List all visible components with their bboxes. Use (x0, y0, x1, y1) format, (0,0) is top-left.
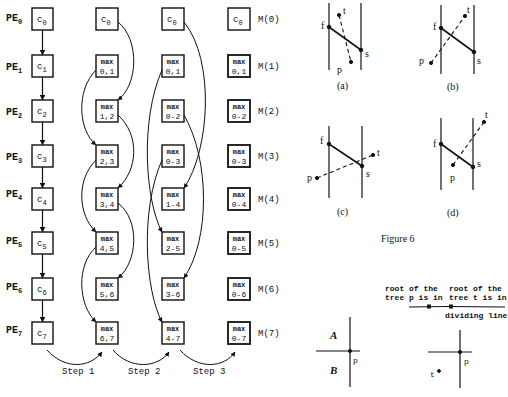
m-label-7: M(7) (258, 329, 280, 339)
m-label-1: M(1) (258, 62, 280, 72)
cell-c4-col0: c4 (32, 188, 53, 210)
svg-text:c0: c0 (37, 15, 47, 27)
svg-text:max: max (233, 235, 246, 243)
svg-text:max: max (233, 103, 246, 111)
svg-text:max: max (101, 191, 114, 199)
svg-text:0-5: 0-5 (232, 244, 247, 253)
figure6-panel-d: f s t p (d) (433, 109, 488, 219)
m-label-0: M(0) (258, 15, 280, 25)
svg-text:0,1: 0,1 (232, 67, 247, 76)
cell-col2-7: max4-7 (162, 322, 184, 344)
step-arrows (47, 350, 235, 365)
svg-text:t: t (343, 5, 346, 16)
svg-text:max: max (233, 58, 246, 66)
svg-text:3-6: 3-6 (166, 290, 181, 299)
cell-col3-2: max0-2 (228, 100, 250, 122)
svg-text:t: t (430, 370, 435, 379)
m-label-6: M(6) (258, 285, 280, 295)
svg-text:0-4: 0-4 (232, 200, 247, 209)
svg-text:f: f (433, 21, 437, 32)
svg-text:p: p (337, 64, 342, 75)
svg-text:max: max (233, 281, 246, 289)
svg-text:p: p (450, 172, 455, 183)
step-1-label: Step 1 (62, 367, 94, 377)
cell-col1-0: c0 (96, 8, 118, 30)
svg-text:4-7: 4-7 (166, 334, 181, 343)
root-t-label-line1: root of the (449, 284, 502, 293)
svg-text:5,6: 5,6 (100, 290, 115, 299)
svg-text:c1: c1 (37, 62, 47, 74)
figure-6-title: Figure 6 (381, 233, 415, 244)
svg-text:p: p (419, 55, 424, 66)
svg-text:c2: c2 (37, 107, 47, 119)
cell-col2-2: max0-2 (162, 100, 184, 122)
svg-text:max: max (167, 58, 180, 66)
svg-text:max: max (101, 148, 114, 156)
m-label-3: M(3) (258, 152, 280, 162)
cell-col1-6: max5,6 (96, 278, 118, 300)
cell-c5-col0: c5 (32, 232, 53, 254)
svg-text:max: max (101, 325, 114, 333)
cell-c0-col0: c0 (32, 8, 53, 30)
m-label-2: M(2) (258, 107, 280, 117)
step-labels: Step 1 Step 2 Step 3 (62, 367, 225, 377)
svg-text:max: max (233, 191, 246, 199)
svg-text:max: max (167, 103, 180, 111)
pe-label-3: PE3 (6, 152, 22, 165)
dividing-line-label: dividing line (445, 311, 508, 320)
svg-text:max: max (167, 281, 180, 289)
svg-text:c0: c0 (101, 15, 111, 27)
svg-text:t: t (377, 147, 380, 158)
svg-text:0-3: 0-3 (166, 157, 181, 166)
root-p-label-line1: root of the (385, 284, 438, 293)
pe-labels: PE0 PE1 PE2 PE3 PE4 PE5 PE6 PE7 (6, 13, 22, 338)
svg-text:c6: c6 (37, 285, 47, 297)
pe-label-4: PE4 (6, 189, 22, 202)
cell-col3-6: max0-6 (228, 278, 250, 300)
caption-c: (c) (337, 206, 348, 218)
svg-text:max: max (101, 103, 114, 111)
caption-b: (b) (447, 81, 459, 93)
svg-text:p: p (307, 172, 312, 183)
svg-text:t: t (485, 109, 488, 120)
svg-text:max: max (167, 235, 180, 243)
svg-text:s: s (477, 55, 481, 66)
cell-col2-3: max0-3 (162, 145, 184, 167)
svg-text:s: s (365, 48, 369, 59)
cell-col3-1: max0,1 (228, 55, 250, 77)
cell-col1-1: max0,1 (96, 55, 118, 77)
cell-col1-2: max1,2 (96, 100, 118, 122)
m-label-5: M(5) (258, 239, 280, 249)
paper-figure: PE0 PE1 PE2 PE3 PE4 PE5 PE6 PE7 c0 c1 c2… (0, 0, 508, 397)
svg-text:max: max (101, 281, 114, 289)
cell-col2-1: max0,1 (162, 55, 184, 77)
cell-col2-5: max2-5 (162, 232, 184, 254)
svg-text:c5: c5 (37, 239, 47, 251)
cell-c7-col0: c7 (32, 322, 53, 344)
svg-text:max: max (167, 325, 180, 333)
svg-text:max: max (101, 58, 114, 66)
svg-text:p: p (464, 357, 469, 366)
pe-label-6: PE6 (6, 282, 22, 295)
cell-c2-col0: c2 (32, 100, 53, 122)
svg-text:t: t (467, 4, 470, 15)
svg-text:max: max (233, 325, 246, 333)
left-cross: A B p (316, 317, 360, 387)
column-2: c0 max0,1 max0-2 max0-3 max1-4 max2-5 ma… (147, 8, 205, 344)
svg-text:p: p (353, 356, 358, 365)
step-2-label: Step 2 (128, 367, 160, 377)
cell-col2-6: max3-6 (162, 278, 184, 300)
svg-text:max: max (167, 148, 180, 156)
svg-text:f: f (433, 138, 437, 149)
svg-text:max: max (233, 148, 246, 156)
svg-text:2,3: 2,3 (100, 157, 115, 166)
pe-label-7: PE7 (6, 325, 22, 338)
root-t-label-line2: tree t is in (449, 293, 507, 302)
prefix-max-diagram: PE0 PE1 PE2 PE3 PE4 PE5 PE6 PE7 c0 c1 c2… (6, 8, 280, 377)
svg-text:3,4: 3,4 (100, 200, 115, 209)
cell-c1-col0: c1 (32, 55, 53, 77)
caption-a: (a) (337, 80, 348, 92)
cell-col1-3: max2,3 (96, 145, 118, 167)
svg-text:0-6: 0-6 (232, 290, 247, 299)
svg-text:0,1: 0,1 (100, 67, 115, 76)
